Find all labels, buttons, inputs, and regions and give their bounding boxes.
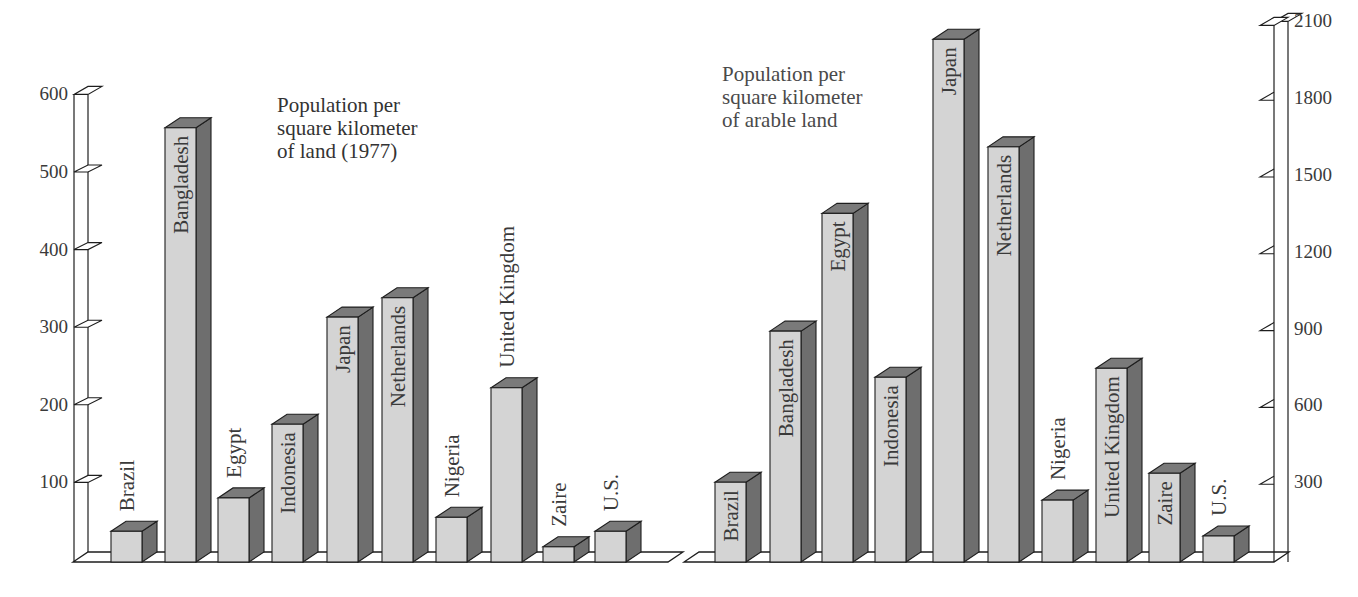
bar-united-kingdom: United Kingdom	[491, 226, 537, 562]
y-tick: 400	[40, 239, 103, 260]
left-title-line-3: of land (1977)	[277, 140, 418, 163]
y-tick-label: 600	[1294, 394, 1323, 415]
left-title-line-2: square kilometer	[277, 117, 418, 140]
bar-label: Brazil	[719, 490, 743, 541]
y-tick: 900	[1260, 318, 1323, 339]
y-tick-label: 200	[40, 394, 69, 415]
bar-u-s: U.S.	[595, 474, 641, 562]
bar-japan: Japan	[933, 29, 979, 562]
bar-label: United Kingdom	[1100, 376, 1124, 518]
y-tick-label: 600	[40, 83, 69, 104]
bar-nigeria: Nigeria	[1042, 416, 1088, 562]
bar-label: Egypt	[222, 428, 246, 478]
bar-label: Netherlands	[386, 306, 410, 407]
bar-brazil: Brazil	[111, 460, 157, 562]
left-chart-title: Population per square kilometer of land …	[277, 94, 418, 163]
bar-label: Brazil	[115, 460, 139, 511]
figure: Population per square kilometer of land …	[0, 0, 1358, 597]
y-tick: 500	[40, 161, 103, 182]
right-y-axis: 3006009001200150018002100	[1260, 10, 1332, 562]
bar-label: Bangladesh	[169, 135, 193, 233]
bar-label: Indonesia	[276, 432, 300, 514]
bar-indonesia: Indonesia	[875, 367, 921, 562]
bar-brazil: Brazil	[715, 472, 761, 562]
y-tick: 1800	[1260, 87, 1332, 108]
right-title-line-3: of arable land	[722, 109, 863, 132]
right-title-line-1: Population per	[722, 63, 863, 86]
y-tick-label: 100	[40, 471, 69, 492]
bar-zaire: Zaire	[543, 483, 589, 562]
bar-nigeria: Nigeria	[436, 434, 482, 562]
left-title-line-1: Population per	[277, 94, 418, 117]
y-tick: 1200	[1260, 241, 1332, 262]
y-tick: 1500	[1260, 164, 1332, 185]
y-tick: 300	[40, 316, 103, 337]
bar-zaire: Zaire	[1149, 463, 1195, 562]
y-tick-label: 1800	[1294, 87, 1332, 108]
y-tick-label: 300	[1294, 471, 1323, 492]
y-tick: 100	[40, 471, 103, 492]
right-title-line-2: square kilometer	[722, 86, 863, 109]
bar-label: United Kingdom	[495, 226, 519, 368]
y-tick: 2100	[1260, 10, 1332, 31]
bar-label: Zaire	[547, 483, 571, 527]
bar-label: Nigeria	[1046, 416, 1070, 480]
y-tick-label: 500	[40, 161, 69, 182]
bar-u-s: U.S.	[1203, 479, 1249, 562]
bar-netherlands: Netherlands	[988, 137, 1034, 562]
chart-canvas: 100200300400500600BrazilBangladeshEgyptI…	[0, 0, 1358, 597]
bar-label: Nigeria	[440, 434, 464, 498]
bar-label: Netherlands	[992, 155, 1016, 256]
y-tick-label: 400	[40, 239, 69, 260]
bar-bangladesh: Bangladesh	[770, 321, 816, 562]
bar-japan: Japan	[327, 307, 373, 562]
y-tick-label: 300	[40, 316, 69, 337]
bar-label: Zaire	[1153, 481, 1177, 525]
bar-label: Bangladesh	[774, 339, 798, 437]
bar-label: Egypt	[826, 221, 850, 271]
bar-label: Japan	[331, 325, 355, 373]
bar-label: Indonesia	[879, 385, 903, 467]
y-tick: 300	[1260, 471, 1323, 492]
bar-indonesia: Indonesia	[272, 414, 318, 562]
y-tick: 200	[40, 394, 103, 415]
y-tick-label: 1200	[1294, 241, 1332, 262]
y-tick-label: 1500	[1294, 164, 1332, 185]
y-tick: 600	[1260, 394, 1323, 415]
bar-egypt: Egypt	[218, 428, 264, 562]
bar-label: Japan	[937, 47, 961, 95]
bar-label: U.S.	[599, 474, 623, 511]
bar-egypt: Egypt	[822, 203, 868, 562]
bar-netherlands: Netherlands	[382, 288, 428, 562]
bar-bangladesh: Bangladesh	[165, 118, 211, 562]
left-y-axis: 100200300400500600	[40, 83, 103, 562]
y-tick: 600	[40, 83, 103, 104]
y-tick-label: 900	[1294, 318, 1323, 339]
y-tick-label: 2100	[1294, 10, 1332, 31]
bar-united-kingdom: United Kingdom	[1096, 358, 1142, 562]
right-chart-title: Population per square kilometer of arabl…	[722, 63, 863, 132]
bar-label: U.S.	[1207, 479, 1231, 516]
